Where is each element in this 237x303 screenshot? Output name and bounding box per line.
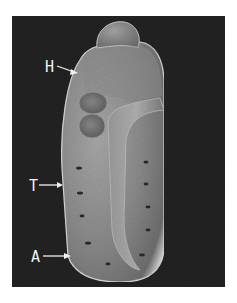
label-H-text: H [45, 58, 54, 76]
label-T-text: T [29, 177, 38, 195]
micrograph-figure: H T A [0, 0, 237, 303]
embryo-bud-upper [79, 92, 107, 114]
label-A-text: A [31, 248, 40, 266]
embryo-bud-lower [79, 114, 105, 138]
